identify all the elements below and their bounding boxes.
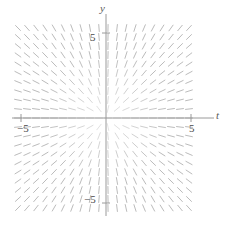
slope-mark xyxy=(151,43,155,49)
slope-mark xyxy=(71,196,74,202)
slope-mark xyxy=(177,90,184,92)
slope-mark xyxy=(150,108,157,109)
slope-mark xyxy=(143,196,146,202)
slope-mark xyxy=(150,161,155,166)
slope-mark xyxy=(43,52,48,57)
slope-mark xyxy=(80,34,82,41)
slope-mark xyxy=(125,196,127,203)
slope-mark xyxy=(116,61,117,68)
slope-mark xyxy=(33,179,38,184)
slope-mark xyxy=(15,90,22,92)
slope-mark xyxy=(169,43,174,48)
slope-mark xyxy=(99,205,100,212)
slope-field-plot xyxy=(0,0,232,225)
slope-mark xyxy=(52,25,56,31)
slope-mark xyxy=(70,79,75,84)
slope-mark xyxy=(61,43,65,49)
slope-mark xyxy=(159,126,166,127)
slope-mark xyxy=(150,152,156,156)
slope-mark xyxy=(42,71,48,75)
slope-mark xyxy=(15,161,21,164)
slope-mark xyxy=(186,44,191,49)
slope-mark xyxy=(99,187,100,194)
slope-mark xyxy=(61,205,64,211)
slope-mark xyxy=(98,88,100,95)
slope-mark xyxy=(177,44,182,49)
slope-mark xyxy=(89,70,91,77)
slope-mark xyxy=(60,152,65,157)
slope-mark xyxy=(150,135,157,138)
slope-mark xyxy=(177,80,183,83)
slope-mark xyxy=(43,34,47,40)
slope-mark xyxy=(159,170,164,175)
slope-mark xyxy=(51,135,58,137)
slope-mark xyxy=(116,178,117,185)
slope-mark xyxy=(186,179,192,183)
slope-mark xyxy=(151,187,155,193)
slope-mark xyxy=(43,187,48,192)
slope-mark xyxy=(79,70,82,76)
slope-mark xyxy=(89,178,91,185)
slope-mark xyxy=(160,187,164,193)
slope-mark xyxy=(33,109,40,110)
slope-mark xyxy=(186,62,192,66)
slope-mark xyxy=(61,160,66,165)
slope-mark xyxy=(42,108,49,109)
slope-mark xyxy=(114,107,119,111)
slope-mark xyxy=(108,133,109,140)
slope-mark xyxy=(80,43,82,50)
slope-mark xyxy=(117,25,118,32)
slope-mark xyxy=(33,90,40,93)
slope-mark xyxy=(24,62,30,66)
slope-mark xyxy=(150,126,157,127)
slope-mark xyxy=(124,142,128,148)
slope-mark xyxy=(80,25,82,32)
slope-mark xyxy=(51,143,57,146)
slope-mark xyxy=(69,134,75,137)
slope-mark xyxy=(186,161,192,164)
slope-mark xyxy=(33,152,39,155)
slope-mark xyxy=(114,125,119,129)
slope-mark xyxy=(142,169,146,175)
slope-mark xyxy=(159,143,165,146)
slope-mark xyxy=(42,170,47,175)
slope-mark xyxy=(150,99,157,102)
slope-mark xyxy=(168,109,175,110)
slope-mark xyxy=(134,25,136,32)
slope-mark xyxy=(71,25,73,32)
slope-mark xyxy=(61,169,65,174)
slope-mark xyxy=(168,144,174,147)
slope-mark xyxy=(15,35,20,40)
slope-mark xyxy=(177,62,183,66)
slope-mark xyxy=(25,34,30,39)
slope-mark xyxy=(89,169,91,176)
slope-mark xyxy=(70,61,74,67)
slope-mark xyxy=(117,205,118,212)
slope-mark xyxy=(33,71,39,75)
slope-mark xyxy=(79,151,83,157)
slope-mark xyxy=(42,135,49,137)
slope-mark xyxy=(61,187,65,193)
slope-mark xyxy=(99,34,100,41)
slope-mark xyxy=(24,71,30,74)
slope-mark xyxy=(168,127,175,128)
slope-mark xyxy=(142,70,147,75)
slope-mark xyxy=(160,205,164,211)
slope-mark xyxy=(160,178,165,183)
slope-mark xyxy=(177,109,184,110)
slope-mark xyxy=(132,108,139,110)
y-axis-tick-label-negative: −5 xyxy=(84,194,96,205)
slope-mark xyxy=(24,135,31,137)
slope-mark xyxy=(151,25,154,31)
slope-mark xyxy=(15,81,21,84)
slope-mark xyxy=(123,98,128,103)
slope-mark xyxy=(69,89,74,93)
slope-mark xyxy=(24,53,29,57)
slope-mark xyxy=(108,142,109,149)
slope-mark xyxy=(15,179,21,183)
slope-mark xyxy=(24,109,31,110)
slope-mark xyxy=(97,124,101,130)
y-axis-tick-label-positive: 5 xyxy=(90,32,96,43)
slope-mark xyxy=(60,135,66,138)
slope-mark xyxy=(88,88,92,94)
